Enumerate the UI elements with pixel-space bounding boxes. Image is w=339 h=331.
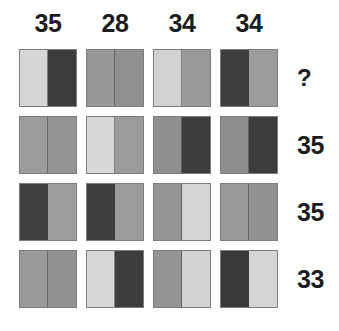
swatch-half-left [154, 50, 182, 106]
swatch-half-left [154, 117, 182, 173]
swatch-cell-r1c4[interactable] [220, 49, 278, 107]
swatch-half-right [182, 184, 210, 240]
matrix-puzzle: 35 28 34 34 [0, 0, 339, 331]
swatch-half-left [221, 50, 249, 106]
column-header-2: 28 [86, 6, 144, 44]
swatch-half-right [249, 50, 277, 106]
swatch-half-right [182, 50, 210, 106]
swatch-half-left [20, 117, 48, 173]
swatch-half-right [182, 117, 210, 173]
swatch-cell-r3c3[interactable] [153, 183, 211, 241]
swatch-cell-r4c4[interactable] [220, 250, 278, 308]
swatch-half-left [87, 251, 115, 307]
swatch-grid [19, 49, 279, 314]
swatch-cell-r1c3[interactable] [153, 49, 211, 107]
swatch-half-left [20, 50, 48, 106]
swatch-half-left [154, 184, 182, 240]
column-header-4: 34 [220, 6, 278, 44]
swatch-cell-r3c4[interactable] [220, 183, 278, 241]
swatch-half-right [249, 117, 277, 173]
swatch-cell-r4c3[interactable] [153, 250, 211, 308]
swatch-half-right [115, 50, 143, 106]
grid-row-3 [19, 183, 279, 241]
swatch-cell-r2c3[interactable] [153, 116, 211, 174]
swatch-half-left [221, 184, 249, 240]
swatch-cell-r1c2[interactable] [86, 49, 144, 107]
row-label-3: 35 [288, 183, 338, 241]
swatch-cell-r3c1[interactable] [19, 183, 77, 241]
swatch-half-right [48, 50, 76, 106]
row-label-2: 35 [288, 116, 338, 174]
swatch-half-left [87, 50, 115, 106]
swatch-half-right [249, 184, 277, 240]
swatch-half-right [249, 251, 277, 307]
swatch-half-right [115, 251, 143, 307]
grid-row-2 [19, 116, 279, 174]
row-label-1-unknown: ? [288, 49, 338, 107]
column-header-3: 34 [153, 6, 211, 44]
swatch-cell-r4c1[interactable] [19, 250, 77, 308]
swatch-cell-r1c1[interactable] [19, 49, 77, 107]
swatch-cell-r4c2[interactable] [86, 250, 144, 308]
column-header-1: 35 [19, 6, 77, 44]
swatch-half-right [115, 117, 143, 173]
swatch-cell-r2c4[interactable] [220, 116, 278, 174]
swatch-half-right [48, 184, 76, 240]
row-label-column: ? 35 35 33 [288, 49, 338, 314]
swatch-cell-r2c2[interactable] [86, 116, 144, 174]
swatch-half-right [115, 184, 143, 240]
swatch-half-left [221, 117, 249, 173]
grid-row-1 [19, 49, 279, 107]
swatch-half-left [87, 184, 115, 240]
swatch-half-right [48, 251, 76, 307]
column-header-row: 35 28 34 34 [19, 6, 279, 44]
swatch-half-right [182, 251, 210, 307]
swatch-half-left [20, 251, 48, 307]
swatch-half-left [154, 251, 182, 307]
row-label-4: 33 [288, 250, 338, 308]
swatch-half-right [48, 117, 76, 173]
swatch-cell-r2c1[interactable] [19, 116, 77, 174]
swatch-cell-r3c2[interactable] [86, 183, 144, 241]
grid-row-4 [19, 250, 279, 308]
swatch-half-left [221, 251, 249, 307]
swatch-half-left [87, 117, 115, 173]
swatch-half-left [20, 184, 48, 240]
